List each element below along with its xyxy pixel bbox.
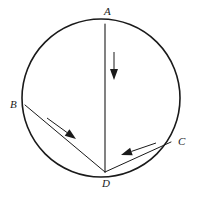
- chord-bd: [25, 105, 105, 172]
- arrow-ad-head: [110, 69, 118, 80]
- arrow-bd-head: [65, 129, 76, 139]
- geometry-figure: A B C D: [0, 0, 197, 200]
- arrow-bd-shaft: [47, 118, 67, 133]
- figure-canvas: [0, 0, 197, 200]
- vertex-label-b: B: [10, 99, 17, 110]
- vertex-label-c: C: [178, 136, 185, 147]
- arrow-group: [47, 52, 156, 155]
- vertex-label-d: D: [102, 178, 110, 189]
- arrow-cd-head: [121, 148, 133, 156]
- circle-outline: [22, 19, 180, 177]
- vertex-label-a: A: [104, 6, 111, 17]
- arrow-ad: [110, 52, 118, 80]
- chord-group: [25, 24, 171, 172]
- arrow-cd: [121, 143, 156, 155]
